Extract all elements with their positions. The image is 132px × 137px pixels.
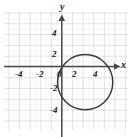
y-tick-label-neg4: -4 xyxy=(50,106,58,115)
x-tick-label-pos2: 2 xyxy=(72,70,77,79)
x-tick-label-pos4: 4 xyxy=(93,70,98,79)
x-axis-label: x xyxy=(121,60,126,70)
y-tick-label-pos2: 2 xyxy=(52,50,57,59)
y-tick-label-pos4: 4 xyxy=(52,29,57,38)
x-tick-label-neg2: -2 xyxy=(36,70,44,79)
y-tick-label-neg2: -2 xyxy=(50,84,58,93)
y-axis-label: y xyxy=(60,2,64,12)
x-tick-label-neg4: -4 xyxy=(15,70,23,79)
graph-figure: y x -4 -2 0 2 4 4 2 -2 -4 xyxy=(0,0,132,137)
origin-label: 0 xyxy=(57,70,62,79)
